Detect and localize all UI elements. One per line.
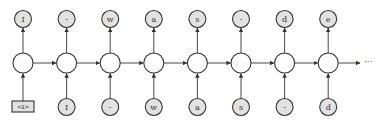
graph: I<s>-Iw-awsa-sd-ed [12,11,360,116]
start-token-label: <s> [17,103,29,111]
input-token-label: d [326,103,331,112]
output-token-label: I [21,15,24,24]
hidden-state-node [144,53,164,73]
input-token-label: a [195,103,200,112]
input-token-label: s [239,103,243,112]
input-token-label: I [65,103,68,112]
continuation-ellipsis: ··· [364,57,373,67]
input-token-label: - [109,103,112,112]
hidden-state-node [231,53,251,73]
output-token-label: e [326,15,331,24]
input-token-label: - [283,103,286,112]
input-token-label: w [150,103,157,112]
hidden-state-node [57,53,77,73]
output-token-label: a [151,15,156,24]
output-token-label: - [240,15,243,24]
hidden-state-node [275,53,295,73]
rnn-diagram: I<s>-Iw-awsa-sd-ed ··· [0,0,384,124]
output-token-label: - [65,15,68,24]
output-token-label: s [195,15,199,24]
output-token-label: d [282,15,287,24]
output-token-label: w [107,15,114,24]
hidden-state-node [100,53,120,73]
hidden-state-node [13,53,33,73]
hidden-state-node [318,53,338,73]
hidden-state-node [187,53,207,73]
